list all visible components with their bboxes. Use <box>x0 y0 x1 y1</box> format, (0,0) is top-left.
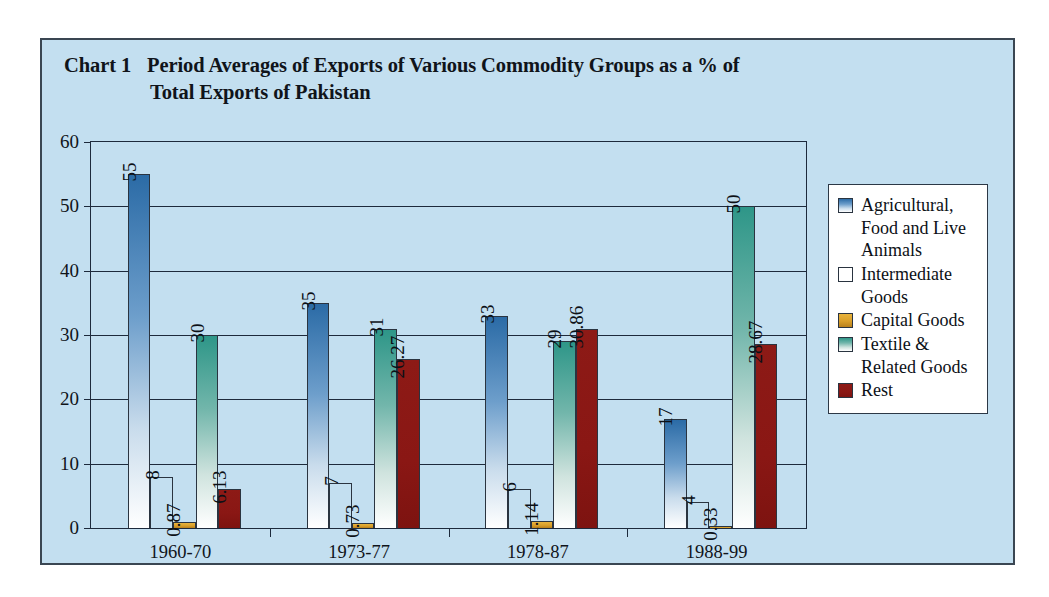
bar: 0.33 <box>709 526 732 528</box>
page-title: Chart 1Period Averages of Exports of Var… <box>64 52 994 106</box>
x-axis-category-label: 1988-99 <box>686 542 748 563</box>
legend-item[interactable]: Rest <box>838 379 980 402</box>
x-axis-category-label: 1973-77 <box>328 542 390 563</box>
legend-item[interactable]: Capital Goods <box>838 309 980 332</box>
bar: 0.87 <box>173 522 196 528</box>
y-axis-tick-mark <box>84 335 91 336</box>
legend-item-label: Agricultural, Food and Live Animals <box>861 194 980 262</box>
x-axis-category-label: 1978-87 <box>507 542 569 563</box>
legend-swatch-agricultural <box>838 198 853 213</box>
x-axis-tick-mark <box>449 528 450 537</box>
legend-item-label: Rest <box>861 379 893 402</box>
bar: 6.13 <box>218 489 241 528</box>
gridline <box>91 271 806 272</box>
y-axis-tick-mark <box>84 464 91 465</box>
bar-value-label: 6 <box>500 483 519 493</box>
bar-value-label: 33 <box>477 304 496 323</box>
legend-swatch-intermediate <box>838 267 853 282</box>
bar: 17 <box>664 419 687 528</box>
chart-legend: Agricultural, Food and Live AnimalsInter… <box>828 184 988 414</box>
y-axis-tick-mark <box>84 528 91 529</box>
legend-item-label: Textile & Related Goods <box>861 333 980 378</box>
bar-value-label: 7 <box>321 476 340 486</box>
bar-value-label: 50 <box>724 195 743 214</box>
y-axis-tick-label: 40 <box>60 259 79 281</box>
bar-value-label: 0.73 <box>343 505 362 538</box>
legend-item-label: Capital Goods <box>861 309 965 332</box>
y-axis-tick-label: 60 <box>60 131 79 153</box>
chart-number-label: Chart 1 <box>64 54 131 76</box>
y-axis-tick-label: 30 <box>60 324 79 346</box>
legend-item-label: Intermediate Goods <box>861 263 980 308</box>
chart-title-line-1: Period Averages of Exports of Various Co… <box>147 54 739 76</box>
bar-value-label: 30 <box>188 324 207 343</box>
y-axis-tick-label: 50 <box>60 195 79 217</box>
bar: 30.86 <box>576 329 599 528</box>
bar-value-label: 6.13 <box>210 470 229 503</box>
bar: 33 <box>485 316 508 528</box>
bar-value-label: 55 <box>120 163 139 182</box>
x-axis-category-label: 1960-70 <box>150 542 212 563</box>
y-axis-tick-mark <box>84 206 91 207</box>
bar: 1.14 <box>531 521 554 528</box>
y-axis-tick-mark <box>84 142 91 143</box>
chart-container: Chart 1Period Averages of Exports of Var… <box>40 38 1015 565</box>
y-axis-tick-mark <box>84 399 91 400</box>
bar: 50 <box>732 206 755 528</box>
bar-value-label: 8 <box>143 470 162 480</box>
bar: 0.73 <box>352 523 375 528</box>
bar-value-label: 0.33 <box>701 507 720 540</box>
bar-value-label: 29 <box>545 330 564 349</box>
bar-value-label: 31 <box>366 317 385 336</box>
plot-area: 01020304050605580.87306.131960-703570.73… <box>90 141 807 529</box>
y-axis-tick-label: 20 <box>60 388 79 410</box>
legend-item[interactable]: Intermediate Goods <box>838 263 980 308</box>
y-axis-tick-mark <box>84 271 91 272</box>
bar-value-label: 35 <box>299 291 318 310</box>
bar-value-label: 30.86 <box>567 306 586 349</box>
bar-value-label: 1.14 <box>522 502 541 535</box>
bar: 26.27 <box>397 359 420 528</box>
legend-swatch-rest <box>838 383 853 398</box>
legend-swatch-capital <box>838 313 853 328</box>
bar: 28.67 <box>755 344 778 528</box>
chart-title-line-2: Total Exports of Pakistan <box>64 79 994 106</box>
y-axis-tick-label: 10 <box>60 452 79 474</box>
bar: 29 <box>553 341 576 528</box>
bar-value-label: 28.67 <box>746 320 765 363</box>
bar: 35 <box>307 303 330 528</box>
x-axis-tick-mark <box>627 528 628 537</box>
bar-value-label: 4 <box>679 496 698 506</box>
bar-value-label: 0.87 <box>165 504 184 537</box>
gridline <box>91 206 806 207</box>
y-axis-tick-label: 0 <box>70 517 80 539</box>
legend-swatch-textile <box>838 337 853 352</box>
legend-item[interactable]: Textile & Related Goods <box>838 333 980 378</box>
bar-value-label: 17 <box>656 407 675 426</box>
x-axis-tick-mark <box>270 528 271 537</box>
legend-item[interactable]: Agricultural, Food and Live Animals <box>838 194 980 262</box>
bar-value-label: 26.27 <box>388 336 407 379</box>
